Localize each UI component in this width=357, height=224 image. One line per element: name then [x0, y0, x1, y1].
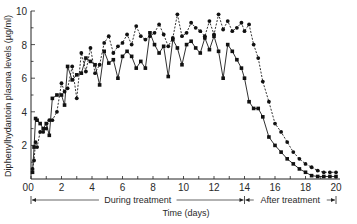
x-tick-label: 6: [120, 182, 126, 193]
x-tick-label: 14: [239, 182, 251, 193]
circle-marker: [322, 170, 326, 174]
square-marker: [157, 51, 161, 55]
square-marker: [134, 66, 138, 70]
square-marker: [180, 63, 184, 67]
circle-marker: [203, 34, 207, 38]
square-marker: [121, 55, 125, 59]
x-tick-label: 18: [300, 182, 312, 193]
square-marker: [247, 100, 251, 104]
square-marker: [125, 50, 129, 54]
arrow-left-icon: [246, 198, 250, 202]
square-marker: [51, 97, 55, 101]
circle-marker: [304, 162, 308, 166]
circle-marker: [89, 46, 93, 50]
square-marker: [48, 134, 52, 138]
circle-marker: [93, 71, 97, 75]
circle-marker: [328, 170, 332, 174]
circle-marker: [217, 12, 221, 16]
circle-marker: [189, 21, 193, 25]
square-marker: [208, 48, 212, 52]
square-marker: [139, 60, 143, 64]
plasma-levels-chart: 024681012141618202468100 During treatmen…: [0, 0, 357, 224]
square-marker: [148, 31, 152, 35]
series-dashed: [31, 12, 338, 174]
square-marker: [166, 75, 170, 79]
square-marker: [185, 43, 189, 47]
x-tick-label: 0: [28, 182, 34, 193]
circle-marker: [153, 31, 157, 35]
series-solid: [31, 31, 338, 178]
y-tick-label: 10: [16, 6, 28, 17]
square-marker: [55, 93, 59, 97]
circle-marker: [334, 170, 338, 174]
square-marker: [322, 175, 326, 179]
circle-marker: [121, 41, 125, 45]
x-tick-label: 20: [330, 182, 342, 193]
square-marker: [221, 76, 225, 80]
square-marker: [316, 175, 320, 179]
circle-marker: [41, 130, 45, 134]
circle-marker: [310, 165, 314, 169]
y-tick-label: 2: [21, 140, 27, 151]
solid-line: [33, 33, 336, 177]
circle-marker: [50, 118, 54, 122]
circle-marker: [235, 26, 239, 30]
x-axis-title: Time (days): [162, 208, 209, 218]
circle-marker: [60, 81, 64, 85]
square-marker: [252, 107, 256, 111]
y-tick-label: 6: [21, 73, 27, 84]
circle-marker: [291, 150, 295, 154]
circle-marker: [298, 157, 302, 161]
square-marker: [194, 46, 198, 50]
circle-marker: [256, 56, 260, 60]
square-marker: [304, 170, 308, 174]
circle-marker: [194, 26, 198, 30]
y-tick-label: 8: [21, 40, 27, 51]
circle-marker: [230, 29, 234, 33]
square-marker: [35, 118, 39, 122]
square-marker: [38, 122, 42, 126]
circle-marker: [107, 34, 111, 38]
square-marker: [89, 60, 93, 64]
circle-marker: [79, 51, 83, 55]
arrow-right-icon: [240, 198, 244, 202]
square-marker: [298, 167, 302, 171]
square-marker: [310, 174, 314, 178]
circle-marker: [180, 34, 184, 38]
circle-marker: [63, 90, 67, 94]
x-tick-label: 8: [150, 182, 156, 193]
circle-marker: [130, 43, 134, 47]
x-tick-label: 10: [178, 182, 190, 193]
square-marker: [116, 76, 120, 80]
square-marker: [189, 39, 193, 43]
circle-marker: [116, 44, 120, 48]
square-marker: [63, 103, 67, 107]
x-tick-label: 2: [59, 182, 65, 193]
y-axis-title: Diphenylhydantoin plasma levels (µg/ml): [3, 15, 13, 177]
square-marker: [285, 157, 289, 161]
circle-marker: [247, 23, 251, 27]
circle-marker: [162, 33, 166, 37]
square-marker: [328, 175, 332, 179]
circle-marker: [212, 33, 216, 37]
circle-marker: [252, 43, 256, 47]
square-marker: [243, 76, 247, 80]
square-marker: [144, 66, 148, 70]
x-tick-label: 12: [208, 182, 220, 193]
square-marker: [292, 162, 296, 166]
square-marker: [256, 107, 260, 111]
square-marker: [98, 83, 102, 87]
square-marker: [66, 65, 70, 69]
square-marker: [153, 43, 157, 47]
x-tick-label: 4: [89, 182, 95, 193]
square-marker: [80, 71, 84, 75]
circle-marker: [55, 110, 59, 114]
circle-marker: [35, 145, 39, 149]
circle-marker: [273, 122, 277, 126]
square-marker: [112, 58, 116, 62]
circle-marker: [44, 127, 48, 131]
x-tick-label: 16: [269, 182, 281, 193]
square-marker: [176, 46, 180, 50]
y-origin-label: 0: [22, 182, 28, 193]
square-marker: [44, 122, 48, 126]
